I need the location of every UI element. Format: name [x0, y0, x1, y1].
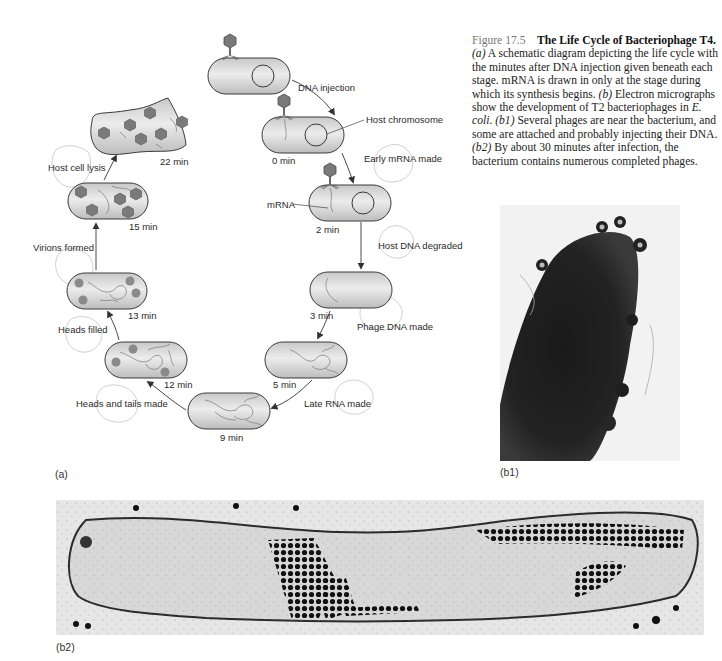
caption-b2-text: By about 30 minutes after infection, the…: [472, 141, 698, 167]
time-9-min: 9 min: [220, 432, 243, 443]
stage-2-min: [309, 163, 391, 221]
stage-9-min: [188, 393, 270, 429]
label-late-rna-made: Late RNA made: [304, 398, 371, 409]
time-22-min: 22 min: [160, 156, 189, 167]
label-dna-injection: DNA injection: [298, 82, 355, 93]
label-early-mrna: Early mRNA made: [364, 153, 442, 164]
label-host-cell-lysis: Host cell lysis: [48, 162, 106, 173]
figure-caption: Figure 17.5 The Life Cycle of Bacterioph…: [472, 34, 722, 168]
label-host-dna-degraded: Host DNA degraded: [378, 240, 463, 251]
stage-attach: [208, 34, 290, 94]
micrograph-b2: [56, 500, 704, 635]
panel-label-b2: (b2): [56, 641, 75, 653]
stage-13-min: [67, 273, 147, 309]
stage-22-min: [91, 98, 188, 155]
caption-b1-tag: (b1): [495, 114, 514, 127]
stage-5-min: [265, 342, 347, 378]
caption-a-tag: (a): [472, 47, 486, 60]
micrograph-b1: [500, 205, 680, 461]
label-phage-dna-made: Phage DNA made: [357, 321, 433, 332]
panel-label-a: (a): [55, 468, 68, 480]
stage-0-min: [262, 94, 344, 153]
time-12-min: 12 min: [164, 379, 193, 390]
label-heads-filled: Heads filled: [58, 324, 108, 335]
label-host-chromosome: Host chromosome: [366, 114, 443, 125]
label-mrna: mRNA: [267, 199, 295, 210]
time-0-min: 0 min: [272, 155, 295, 166]
time-2-min: 2 min: [316, 224, 339, 235]
panel-label-b1: (b1): [500, 466, 519, 478]
time-15-min: 15 min: [129, 221, 158, 232]
time-3-min: 3 min: [310, 310, 333, 321]
time-5-min: 5 min: [273, 379, 296, 390]
figure-title: The Life Cycle of Bacteriophage T4.: [537, 34, 716, 47]
stage-15-min: [68, 183, 148, 219]
label-heads-tails-made: Heads and tails made: [76, 398, 168, 409]
stage-12-min: [105, 342, 187, 378]
caption-b2-tag: (b2): [472, 141, 491, 154]
stage-3-min: [310, 272, 392, 308]
figure-number: Figure 17.5: [472, 34, 525, 47]
time-13-min: 13 min: [128, 310, 157, 321]
label-virions-formed: Virions formed: [33, 242, 94, 253]
caption-b-tag: (b): [599, 88, 613, 101]
